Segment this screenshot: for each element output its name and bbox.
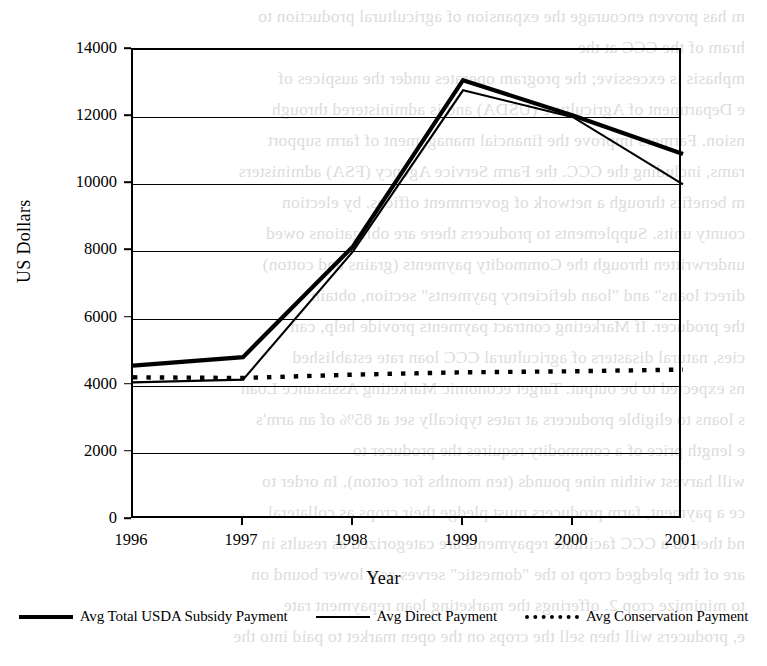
y-tick-label: 4000 [33, 374, 117, 394]
y-tick-label: 14000 [33, 38, 117, 58]
y-tick-label: 12000 [33, 105, 117, 125]
series-container [133, 50, 683, 520]
y-gridline [133, 184, 679, 185]
y-tick-mark [124, 450, 131, 452]
legend-swatch-icon [19, 615, 73, 619]
y-tick-mark [124, 249, 131, 251]
legend-label: Avg Direct Payment [377, 608, 497, 625]
x-axis-label: Year [0, 568, 767, 589]
y-gridline [133, 251, 679, 252]
legend-label: Avg Total USDA Subsidy Payment [80, 608, 288, 625]
series-line-2 [133, 370, 683, 378]
series-line-1 [133, 90, 683, 382]
y-tick-label: 2000 [33, 441, 117, 461]
y-tick-mark [124, 47, 131, 49]
legend-swatch-icon [525, 615, 579, 619]
chart-legend: Avg Total USDA Subsidy PaymentAvg Direct… [0, 608, 767, 625]
y-gridline [133, 386, 679, 387]
y-tick-label: 0 [33, 508, 117, 528]
y-axis-label: US Dollars [14, 200, 35, 284]
y-tick-mark [124, 383, 131, 385]
x-tick-mark [571, 518, 573, 525]
y-gridline [133, 319, 679, 320]
x-tick-label: 1998 [311, 530, 391, 550]
y-tick-mark [124, 181, 131, 183]
y-gridline [133, 453, 679, 454]
legend-entry[interactable]: Avg Direct Payment [316, 608, 497, 625]
legend-entry[interactable]: Avg Total USDA Subsidy Payment [19, 608, 288, 625]
chart-figure: US Dollars Year Avg Total USDA Subsidy P… [0, 0, 767, 666]
plot-area [131, 48, 681, 518]
series-line-0 [133, 80, 683, 365]
y-tick-label: 6000 [33, 307, 117, 327]
x-tick-label: 2000 [531, 530, 611, 550]
legend-entry[interactable]: Avg Conservation Payment [525, 608, 748, 625]
y-tick-label: 10000 [33, 172, 117, 192]
y-gridline [133, 117, 679, 118]
legend-label: Avg Conservation Payment [586, 608, 748, 625]
x-tick-label: 1999 [421, 530, 501, 550]
x-tick-mark [461, 518, 463, 525]
x-tick-label: 1996 [91, 530, 171, 550]
x-tick-label: 2001 [641, 530, 721, 550]
legend-swatch-icon [316, 616, 370, 618]
y-tick-mark [124, 517, 131, 519]
x-tick-mark [241, 518, 243, 525]
y-tick-mark [124, 114, 131, 116]
y-tick-mark [124, 316, 131, 318]
x-tick-mark [351, 518, 353, 525]
y-tick-label: 8000 [33, 239, 117, 259]
x-tick-label: 1997 [201, 530, 281, 550]
